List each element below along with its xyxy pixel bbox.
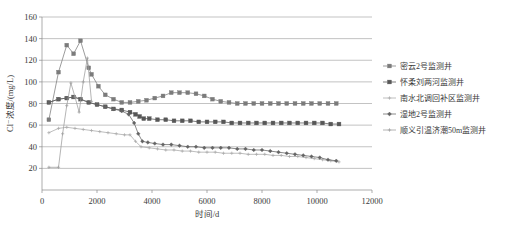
data-point-marker bbox=[246, 121, 250, 125]
data-point-marker bbox=[178, 91, 182, 95]
data-point-marker bbox=[78, 111, 81, 114]
data-point-marker bbox=[304, 156, 307, 159]
data-point-marker bbox=[120, 101, 124, 105]
data-point-marker bbox=[293, 102, 297, 106]
data-point-marker bbox=[244, 102, 248, 106]
y-tick-label: 120 bbox=[24, 55, 37, 65]
data-point-marker bbox=[189, 119, 193, 123]
legend-item-4[interactable]: 湿地2号监测井 bbox=[383, 109, 452, 119]
series-group bbox=[47, 39, 341, 169]
data-point-marker bbox=[277, 150, 281, 154]
data-point-marker bbox=[169, 91, 173, 95]
data-point-marker bbox=[230, 121, 234, 125]
data-point-marker bbox=[161, 143, 165, 147]
data-point-marker bbox=[156, 147, 159, 150]
data-point-marker bbox=[329, 122, 333, 126]
y-tick-label: 20 bbox=[29, 163, 38, 173]
series-3 bbox=[47, 126, 340, 164]
data-point-marker bbox=[134, 112, 138, 116]
data-point-marker bbox=[271, 121, 275, 125]
data-point-marker bbox=[136, 132, 140, 136]
x-axis-ticks: 020004000600080001000012000 bbox=[40, 190, 383, 206]
data-point-marker bbox=[61, 132, 64, 135]
data-point-marker bbox=[230, 152, 233, 155]
data-point-marker bbox=[145, 98, 149, 102]
x-tick-label: 0 bbox=[40, 196, 44, 206]
data-point-marker bbox=[271, 154, 274, 157]
data-point-marker bbox=[277, 102, 281, 106]
data-point-marker bbox=[79, 39, 83, 43]
y-axis-ticks: 20406080100120140160 bbox=[24, 12, 42, 173]
legend-label: 密云2号监测井 bbox=[400, 61, 452, 71]
data-point-marker bbox=[172, 119, 176, 123]
legend-label: 顺义引温济潮50m监测井 bbox=[400, 125, 486, 135]
data-point-marker bbox=[90, 72, 94, 76]
data-point-marker bbox=[285, 151, 289, 155]
series-5 bbox=[47, 56, 93, 168]
data-point-marker bbox=[146, 141, 150, 145]
data-point-marker bbox=[252, 102, 256, 106]
data-point-marker bbox=[132, 121, 136, 125]
data-point-marker bbox=[82, 128, 85, 131]
data-point-marker bbox=[123, 133, 126, 136]
data-point-marker bbox=[304, 121, 308, 125]
data-point-marker bbox=[82, 80, 85, 83]
data-point-marker bbox=[186, 91, 190, 95]
y-tick-label: 60 bbox=[29, 120, 38, 130]
legend-item-5[interactable]: 顺义引温济潮50m监测井 bbox=[383, 125, 486, 135]
x-tick-label: 8000 bbox=[254, 196, 271, 206]
data-point-marker bbox=[47, 118, 51, 122]
y-tick-label: 80 bbox=[29, 99, 38, 109]
x-axis-title: 时间/d bbox=[195, 209, 220, 219]
data-point-marker bbox=[214, 151, 217, 154]
x-tick-label: 6000 bbox=[199, 196, 216, 206]
data-point-marker bbox=[57, 127, 60, 130]
data-point-marker bbox=[388, 112, 392, 116]
data-point-marker bbox=[90, 129, 93, 132]
data-point-marker bbox=[326, 102, 330, 106]
data-point-marker bbox=[255, 153, 258, 156]
data-point-marker bbox=[161, 94, 165, 98]
y-tick-label: 160 bbox=[24, 12, 37, 22]
data-point-marker bbox=[98, 130, 101, 133]
data-point-marker bbox=[136, 99, 140, 103]
legend-item-1[interactable]: 密云2号监测井 bbox=[383, 61, 452, 71]
data-point-marker bbox=[186, 145, 190, 149]
data-point-marker bbox=[222, 120, 226, 124]
x-tick-label: 12000 bbox=[361, 196, 382, 206]
data-point-marker bbox=[47, 131, 50, 134]
legend-label: 怀柔刘两河监测井 bbox=[400, 77, 464, 87]
data-point-marker bbox=[57, 70, 61, 74]
data-point-marker bbox=[141, 140, 145, 144]
data-point-marker bbox=[142, 117, 146, 121]
data-point-marker bbox=[172, 148, 175, 151]
legend-item-2[interactable]: 怀柔刘两河监测井 bbox=[383, 77, 464, 87]
series-line bbox=[49, 41, 336, 120]
data-point-marker bbox=[388, 80, 392, 84]
data-point-marker bbox=[288, 155, 291, 158]
data-point-marker bbox=[138, 115, 142, 119]
data-point-marker bbox=[255, 121, 259, 125]
legend-item-3[interactable]: 南水北调回补区监测井 bbox=[383, 93, 480, 103]
data-point-marker bbox=[310, 102, 314, 106]
data-point-marker bbox=[388, 96, 391, 99]
data-point-marker bbox=[156, 118, 160, 122]
x-tick-label: 4000 bbox=[144, 196, 161, 206]
data-point-marker bbox=[260, 102, 264, 106]
series-1 bbox=[47, 39, 338, 122]
data-point-marker bbox=[189, 149, 192, 152]
y-tick-label: 100 bbox=[24, 77, 37, 87]
data-point-marker bbox=[164, 118, 168, 122]
data-point-marker bbox=[268, 102, 272, 106]
data-point-marker bbox=[280, 154, 283, 157]
data-point-marker bbox=[115, 132, 118, 135]
line-chart: 2040608010012014016002000400060008000100… bbox=[0, 0, 516, 235]
data-point-marker bbox=[252, 148, 256, 152]
data-point-marker bbox=[96, 84, 100, 88]
data-point-marker bbox=[263, 153, 266, 156]
x-tick-label: 2000 bbox=[89, 196, 106, 206]
data-point-marker bbox=[180, 119, 184, 123]
data-point-marker bbox=[238, 121, 242, 125]
data-point-marker bbox=[244, 147, 248, 151]
data-point-marker bbox=[112, 97, 116, 101]
